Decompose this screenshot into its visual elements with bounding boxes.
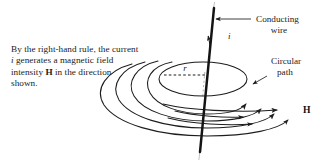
field-line-1 (148, 62, 246, 114)
current-label: i (228, 31, 231, 41)
conducting-wire-label-line1: Conducting (256, 14, 299, 24)
field-line-3 (116, 62, 274, 128)
circular-path-front (159, 79, 247, 96)
physics-diagram: r i Conducting wire Circular path H (0, 0, 323, 164)
circular-path-leader (253, 76, 267, 84)
field-intensity-label: H (303, 104, 311, 115)
conducting-wire-label-line2: wire (271, 25, 287, 35)
circular-path-back (159, 62, 247, 79)
conducting-wire (200, 8, 214, 152)
circular-path-label-line1: Circular (271, 56, 301, 66)
figure-canvas: By the right-hand rule, the current i ge… (0, 0, 323, 164)
radius-label: r (183, 63, 187, 73)
field-line-2 (131, 61, 261, 121)
circular-path-label-line2: path (277, 67, 293, 77)
